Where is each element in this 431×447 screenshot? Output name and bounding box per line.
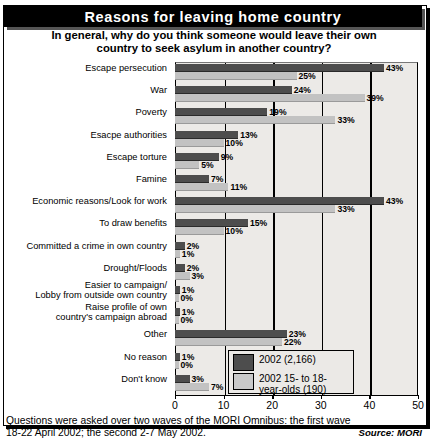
category-label-line: Escape torture (107, 152, 167, 162)
subtitle-line-1: In general, why do you think someone wou… (8, 29, 420, 42)
bar-series-a (175, 353, 180, 361)
category-label-line: Esacpe authorities (91, 130, 168, 140)
chart-figure: Reasons for leaving home country In gene… (0, 0, 431, 447)
category-label-line: Escape persecution (85, 63, 167, 73)
bar-series-b (175, 227, 224, 235)
x-tick-label: 20 (266, 399, 278, 411)
bar-series-a (175, 64, 384, 72)
bar-value-label-series-b: 33% (337, 204, 354, 214)
legend-label-series-b-line1: 2002 15- to 18- (259, 373, 327, 384)
bar-value-label-series-b: 33% (337, 115, 354, 125)
bar-value-label-series-b: 10% (226, 226, 243, 236)
bar-value-label-series-a: 9% (221, 152, 233, 162)
legend-item-series-a: 2002 (2,166) (233, 354, 349, 371)
bar-group: 43%33% (175, 197, 418, 217)
category-label-line: Easier to campaign/ (85, 280, 167, 290)
category-label-line: To draw benefits (99, 218, 167, 228)
subtitle-line-2: country to seek asylum in another countr… (8, 42, 420, 55)
bar-series-b (175, 272, 190, 280)
bar-series-a (175, 108, 267, 116)
bar-series-b (175, 250, 180, 258)
legend-label-series-b-line2: year-olds (190) (259, 384, 326, 395)
category-label: Drought/Floods (0, 263, 171, 273)
bar-group: 24%39% (175, 86, 418, 106)
bar-rows: 43%25%24%39%19%33%13%10%9%5%7%11%43%33%1… (175, 62, 418, 395)
bar-value-label-series-b: 1% (182, 249, 194, 259)
bar-series-a (175, 308, 180, 316)
category-label: War (0, 85, 171, 95)
x-tick-label: 0 (172, 399, 178, 411)
bar-series-a (175, 86, 292, 94)
bar-series-b (175, 116, 335, 124)
chart-title: Reasons for leaving home country (85, 9, 342, 25)
bar-value-label-series-a: 19% (269, 107, 286, 117)
bar-value-label-series-b: 3% (192, 271, 204, 281)
category-label: No reason (0, 352, 171, 362)
bar-series-a (175, 330, 287, 338)
category-label: Committed a crime in own country (0, 241, 171, 251)
bar-series-a (175, 175, 209, 183)
category-label-line: Famine (136, 174, 167, 184)
bar-value-label-series-b: 11% (230, 182, 247, 192)
bar-value-label-series-b: 0% (181, 315, 193, 325)
bar-value-label-series-b: 39% (367, 93, 384, 103)
category-label-line: Poverty (135, 107, 167, 117)
bar-group: 43%25% (175, 64, 418, 84)
title-bar: Reasons for leaving home country (4, 6, 422, 27)
bar-value-label-series-b: 22% (284, 337, 301, 347)
chart-footer: Questions were asked over two waves of t… (6, 415, 426, 440)
footnote-line-1: Questions were asked over two waves of t… (6, 415, 426, 427)
x-tick-label: 50 (412, 399, 424, 411)
category-label: Esacpe authorities (0, 130, 171, 140)
bar-series-b (175, 161, 199, 169)
category-label-line: No reason (124, 352, 167, 362)
x-tick-label: 30 (315, 399, 327, 411)
bar-value-label-series-b: 0% (181, 360, 193, 370)
category-label: Don't know (0, 374, 171, 384)
bar-group: 1%0% (175, 286, 418, 306)
bar-group: 13%10% (175, 131, 418, 151)
bar-value-label-series-b: 10% (226, 138, 243, 148)
category-label: To draw benefits (0, 218, 171, 228)
category-label-line: War (150, 85, 167, 95)
bar-group: 2%1% (175, 242, 418, 262)
category-label-line: Other (144, 329, 167, 339)
bar-value-label-series-b: 5% (201, 160, 213, 170)
bar-group: 15%10% (175, 219, 418, 239)
category-label: Economic reasons/Look for work (0, 196, 171, 206)
bar-series-b (175, 383, 209, 391)
bar-series-b (175, 183, 228, 191)
category-label-line: Don't know (121, 374, 167, 384)
bar-series-b (175, 139, 224, 147)
bar-value-label-series-b: 0% (181, 293, 193, 303)
bar-value-label-series-a: 24% (294, 85, 311, 95)
bar-series-b (175, 361, 179, 369)
x-tick-label: 10 (218, 399, 230, 411)
bar-group: 19%33% (175, 108, 418, 128)
bar-value-label-series-a: 15% (250, 218, 267, 228)
category-label: Escape torture (0, 152, 171, 162)
bar-series-b (175, 94, 365, 102)
bar-group: 7%11% (175, 175, 418, 195)
bar-value-label-series-b: 7% (211, 382, 223, 392)
chart-legend: 2002 (2,166) 2002 15- to 18- year-olds (… (228, 350, 354, 394)
category-label-line: Lobby from outside own country (35, 290, 167, 300)
bar-group: 2%3% (175, 264, 418, 284)
bar-group: 9%5% (175, 153, 418, 173)
bar-series-b (175, 316, 179, 324)
chart-subtitle: In general, why do you think someone wou… (8, 29, 420, 55)
bar-value-label-series-a: 43% (386, 63, 403, 73)
legend-item-series-b: 2002 15- to 18- year-olds (190) (233, 373, 349, 395)
bar-value-label-series-a: 3% (192, 374, 204, 384)
bar-group: 1%0% (175, 308, 418, 328)
bar-series-b (175, 72, 297, 80)
category-label: Famine (0, 174, 171, 184)
legend-swatch-icon-series-b (233, 373, 254, 390)
category-label-line: Raise profile of own (85, 302, 167, 312)
bar-series-b (175, 338, 282, 346)
source-label: Source: MORI (359, 427, 422, 438)
bar-series-a (175, 286, 180, 294)
x-axis-line (175, 395, 418, 396)
category-label-line: Economic reasons/Look for work (32, 196, 167, 206)
bar-series-b (175, 205, 335, 213)
